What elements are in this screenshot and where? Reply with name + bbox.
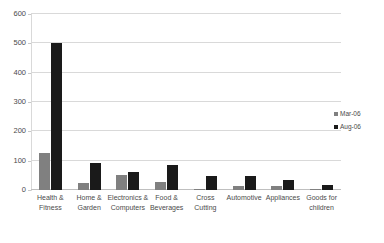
bar: [78, 183, 89, 190]
y-tick-label-300: 300: [13, 98, 26, 106]
bar: [128, 172, 139, 190]
y-tick-label-600: 600: [13, 10, 26, 18]
bar: [51, 43, 62, 190]
legend-label: Mar-06: [340, 110, 361, 118]
plot-area: [31, 14, 341, 190]
bar-group: [31, 14, 70, 190]
bar-group: [186, 14, 225, 190]
bar: [39, 153, 50, 190]
bar-group: [109, 14, 148, 190]
bar: [322, 185, 333, 190]
legend-item[interactable]: Aug-06: [334, 123, 384, 131]
y-tick-label-200: 200: [13, 127, 26, 135]
bar: [233, 186, 244, 190]
bar: [245, 176, 256, 190]
bar-group: [225, 14, 264, 190]
bar: [194, 189, 205, 190]
bar: [271, 186, 282, 190]
bar-group: [302, 14, 341, 190]
legend-swatch-icon: [334, 112, 338, 116]
bar-group: [264, 14, 303, 190]
bar-group: [147, 14, 186, 190]
bar-chart: 0100200300400500600 Health & FitnessHome…: [0, 0, 384, 243]
bar: [90, 163, 101, 190]
bar: [167, 165, 178, 190]
bar-group: [70, 14, 109, 190]
bar: [155, 182, 166, 190]
bar: [283, 180, 294, 190]
legend-label: Aug-06: [340, 123, 361, 131]
y-tick-label-100: 100: [13, 157, 26, 165]
x-axis-category-label: Goods for children: [296, 193, 347, 212]
y-tick-label-400: 400: [13, 69, 26, 77]
y-tick-label-500: 500: [13, 39, 26, 47]
bar: [310, 189, 321, 190]
x-axis-labels: Health & FitnessHome & GardenElectronics…: [31, 193, 341, 233]
bar: [206, 176, 217, 190]
legend-swatch-icon: [334, 125, 338, 129]
chart-legend: Mar-06Aug-06: [334, 110, 384, 136]
bar: [116, 175, 127, 190]
legend-item[interactable]: Mar-06: [334, 110, 384, 118]
